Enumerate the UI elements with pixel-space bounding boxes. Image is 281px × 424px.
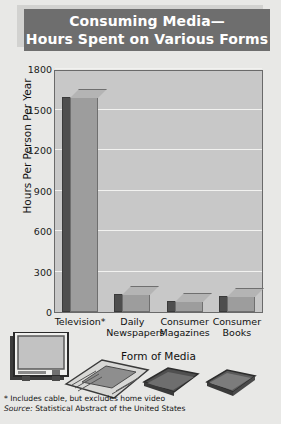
chart-title-line-2: Hours Spent on Various Forms: [26, 30, 268, 48]
bar-top-face: [175, 293, 212, 302]
bar-front-face: [122, 294, 150, 312]
y-tick-label: 1800: [6, 65, 52, 75]
x-tick-label-line: Television*: [54, 316, 106, 327]
bar-front-face: [227, 296, 255, 312]
y-tick-label: 300: [6, 268, 52, 278]
x-tick-label: Television*: [54, 316, 106, 327]
y-tick-label: 1200: [6, 146, 52, 156]
footnote-source: Source: Statistical Abstract of the Unit…: [4, 404, 254, 414]
x-tick-label-line: Consumer: [211, 316, 263, 327]
chart-figure: Consuming Media— Hours Spent on Various …: [0, 0, 281, 424]
bar-2: [114, 285, 152, 312]
bar-3: [167, 292, 205, 312]
x-tick-label-line: Consumer: [159, 316, 211, 327]
bar-top-face: [122, 286, 159, 295]
television-icon: [8, 332, 70, 388]
y-tick-label: 0: [6, 308, 52, 318]
plot-area: [54, 70, 263, 313]
bar-front-face: [175, 301, 203, 312]
x-tick-label-line: Daily: [106, 316, 158, 327]
footnote-source-text: Statistical Abstract of the United State…: [33, 404, 186, 413]
y-tick-label: 600: [6, 227, 52, 237]
bar-front-face: [70, 97, 98, 312]
y-tick-label: 1500: [6, 106, 52, 116]
gridline: [55, 68, 262, 69]
decorative-illustrations: [0, 330, 281, 400]
y-tick-label: 900: [6, 187, 52, 197]
footnote-block: * Includes cable, but excludes home vide…: [4, 394, 254, 414]
chart-title-line-1: Consuming Media—: [69, 12, 225, 30]
bar-top-face: [227, 288, 264, 297]
footnote-source-prefix: Source:: [4, 404, 33, 413]
y-axis-ticks: 0300600900120015001800: [4, 70, 52, 313]
chart-title-banner: Consuming Media— Hours Spent on Various …: [24, 9, 270, 51]
bar-4: [219, 287, 257, 312]
bar-top-face: [70, 89, 107, 98]
footnote-note: * Includes cable, but excludes home vide…: [4, 394, 254, 404]
bar-1: [62, 88, 100, 312]
